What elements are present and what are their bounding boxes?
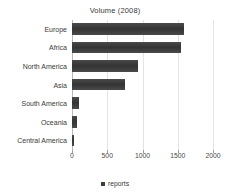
bar-row [72, 94, 213, 113]
category-label-europe: Europe [44, 25, 67, 34]
chart-title: Volume (2008) [0, 6, 230, 15]
gridline-2000 [213, 20, 214, 150]
bar-asia [72, 79, 125, 91]
tick-mark-1000 [143, 150, 144, 153]
bar-north-america [72, 60, 138, 72]
bar-central-america [72, 135, 74, 147]
bar-row [72, 76, 213, 95]
chart-legend: reports [0, 180, 230, 187]
x-tick-label-1500: 1500 [170, 152, 185, 159]
bar-row [72, 39, 213, 58]
bar-oceania [72, 116, 77, 128]
bar-south-america [72, 97, 79, 109]
tick-mark-500 [107, 150, 108, 153]
legend-label-reports: reports [108, 180, 129, 187]
bar-row [72, 20, 213, 39]
category-label-central-america: Central America [17, 136, 67, 145]
x-tick-label-500: 500 [102, 152, 113, 159]
bar-europe [72, 23, 184, 35]
category-label-africa: Africa [49, 43, 67, 52]
tick-mark-1500 [178, 150, 179, 153]
category-label-south-america: South America [21, 99, 67, 108]
category-label-oceania: Oceania [41, 118, 67, 127]
category-label-asia: Asia [53, 81, 67, 90]
bar-row [72, 57, 213, 76]
x-tick-label-1000: 1000 [135, 152, 150, 159]
x-axis-tick-labels: 0500100015002000 [0, 152, 230, 164]
x-tick-label-2000: 2000 [205, 152, 220, 159]
legend-swatch-reports [101, 182, 105, 186]
plot-area [72, 20, 213, 150]
category-label-north-america: North America [23, 62, 67, 71]
bar-africa [72, 42, 181, 54]
tick-mark-2000 [213, 150, 214, 153]
bar-chart: Volume (2008) EuropeAfricaNorth AmericaA… [0, 0, 230, 195]
bar-row [72, 131, 213, 150]
x-tick-label-0: 0 [70, 152, 74, 159]
bar-row [72, 113, 213, 132]
tick-mark-0 [72, 150, 73, 153]
